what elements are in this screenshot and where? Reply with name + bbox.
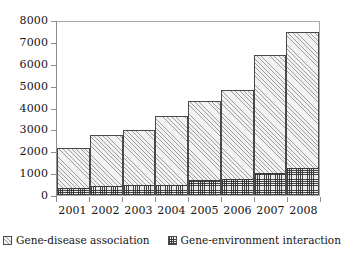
- bar-segment-gene-environment-interaction[interactable]: [156, 185, 187, 195]
- bar-column-2004[interactable]: [155, 22, 188, 195]
- x-axis-tick: [287, 197, 288, 202]
- bar-segment-gene-disease-association[interactable]: [124, 131, 155, 185]
- bar-column-2005[interactable]: [188, 22, 221, 195]
- x-axis-tick: [254, 197, 255, 202]
- x-axis-tick: [320, 197, 321, 202]
- x-axis-tick-label-2008: 2008: [287, 205, 320, 217]
- plot-area: [56, 21, 320, 196]
- stacked-bar[interactable]: [221, 90, 254, 195]
- bar-segment-gene-disease-association[interactable]: [287, 33, 318, 168]
- y-axis-tick-label: 1000: [20, 168, 48, 179]
- y-axis-tick: [51, 87, 56, 88]
- bar-segment-gene-disease-association[interactable]: [58, 149, 89, 188]
- y-axis-line: [56, 21, 57, 197]
- y-axis-tick-label: 5000: [20, 81, 48, 92]
- y-axis-tick: [51, 65, 56, 66]
- x-axis-tick: [221, 197, 222, 202]
- bar-segment-gene-disease-association[interactable]: [189, 102, 220, 181]
- x-axis-tick-label-2006: 2006: [221, 205, 254, 217]
- bar-segment-gene-environment-interaction[interactable]: [189, 180, 220, 195]
- x-axis-tick-label-2003: 2003: [122, 205, 155, 217]
- bar-segment-gene-environment-interaction[interactable]: [255, 173, 286, 195]
- bar-segment-gene-environment-interaction[interactable]: [124, 185, 155, 195]
- y-axis-tick: [51, 109, 56, 110]
- stacked-bar[interactable]: [57, 148, 90, 195]
- bar-column-2002[interactable]: [90, 22, 123, 195]
- stacked-bar[interactable]: [123, 130, 156, 195]
- bar-segment-gene-environment-interaction[interactable]: [222, 179, 253, 195]
- stacked-bar[interactable]: [286, 32, 319, 195]
- bar-segment-gene-environment-interaction[interactable]: [58, 188, 89, 195]
- stacked-bar[interactable]: [254, 55, 287, 195]
- y-axis-tick: [51, 21, 56, 22]
- x-axis-tick-label-2004: 2004: [155, 205, 188, 217]
- x-axis-tick: [56, 197, 57, 202]
- stacked-bar[interactable]: [155, 116, 188, 195]
- diagonal-hatch-swatch: [3, 236, 12, 245]
- x-axis-tick-label-2005: 2005: [188, 205, 221, 217]
- bar-segment-gene-disease-association[interactable]: [156, 117, 187, 185]
- bar-chart-figure: 010002000300040005000600070008000 200120…: [0, 0, 344, 263]
- y-axis-tick: [51, 152, 56, 153]
- chart-legend: Gene-disease associationGene-environment…: [0, 234, 344, 246]
- y-axis-tick-label: 7000: [20, 37, 48, 48]
- bar-segment-gene-disease-association[interactable]: [222, 91, 253, 179]
- bar-segment-gene-environment-interaction[interactable]: [91, 186, 122, 195]
- bar-column-2008[interactable]: [286, 22, 319, 195]
- legend-entry-2[interactable]: Gene-environment interaction: [168, 234, 341, 246]
- bar-segment-gene-environment-interaction[interactable]: [287, 168, 318, 195]
- x-axis-tick: [188, 197, 189, 202]
- bar-segment-gene-disease-association[interactable]: [255, 56, 286, 174]
- x-axis-tick: [89, 197, 90, 202]
- x-axis-tick: [122, 197, 123, 202]
- x-axis-tick-label-2001: 2001: [56, 205, 89, 217]
- x-axis-tick-label-2007: 2007: [254, 205, 287, 217]
- bar-column-2003[interactable]: [123, 22, 156, 195]
- y-axis-tick: [51, 43, 56, 44]
- y-axis-tick-label: 0: [41, 190, 48, 201]
- legend-label: Gene-environment interaction: [181, 234, 341, 246]
- legend-label: Gene-disease association: [16, 234, 150, 246]
- y-axis-tick-label: 8000: [20, 15, 48, 26]
- y-axis-tick-label: 3000: [20, 124, 48, 135]
- bar-segment-gene-disease-association[interactable]: [91, 136, 122, 186]
- y-axis-tick-label: 2000: [20, 146, 48, 157]
- bar-column-2006[interactable]: [221, 22, 254, 195]
- legend-entry-1[interactable]: Gene-disease association: [3, 234, 150, 246]
- x-axis-tick-label-2002: 2002: [89, 205, 122, 217]
- y-axis-tick: [51, 174, 56, 175]
- bar-column-2001[interactable]: [57, 22, 90, 195]
- x-axis-tick: [155, 197, 156, 202]
- y-axis-tick: [51, 130, 56, 131]
- bar-column-2007[interactable]: [254, 22, 287, 195]
- y-axis-tick-label: 4000: [20, 103, 48, 114]
- stacked-bar[interactable]: [188, 101, 221, 196]
- stacked-bar[interactable]: [90, 135, 123, 195]
- cross-hatch-swatch: [168, 236, 177, 245]
- bar-series-container: [57, 22, 319, 195]
- y-axis-tick-label: 6000: [20, 59, 48, 70]
